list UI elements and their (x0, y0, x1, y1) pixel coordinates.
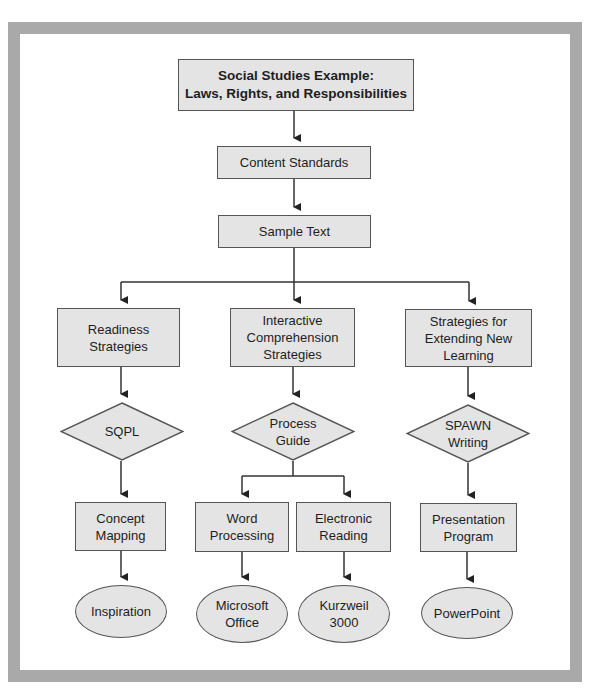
method-line: Guide (276, 432, 311, 449)
strategy-line: Strategies (263, 346, 322, 363)
tool-line: Electronic (315, 510, 372, 527)
strategy-line: Learning (443, 347, 494, 364)
title-line-1: Social Studies Example: (218, 67, 374, 85)
software-line: Kurzweil (319, 597, 368, 614)
method-line: Writing (448, 434, 488, 451)
tool-line: Word (227, 510, 258, 527)
process-guide-diamond: Process Guide (231, 402, 355, 461)
sample-text-box: Sample Text (218, 215, 371, 248)
strategy-line: Extending New (425, 330, 512, 347)
method-line: SQPL (105, 423, 140, 440)
title-line-2: Laws, Rights, and Responsibilities (185, 85, 407, 103)
title-box: Social Studies Example: Laws, Rights, an… (178, 59, 414, 111)
tool-line: Presentation (432, 511, 505, 528)
software-line: Microsoft (216, 597, 269, 614)
tool-line: Concept (96, 510, 144, 527)
strategy-line: Comprehension (247, 329, 339, 346)
software-line: PowerPoint (434, 605, 500, 622)
concept-mapping-box: Concept Mapping (75, 502, 166, 551)
tool-line: Program (444, 528, 494, 545)
tool-line: Reading (319, 527, 367, 544)
interactive-comprehension-strategies-box: Interactive Comprehension Strategies (230, 308, 355, 367)
content-standards-box: Content Standards (217, 146, 371, 179)
sample-text-label: Sample Text (259, 223, 330, 240)
extending-learning-strategies-box: Strategies for Extending New Learning (405, 309, 532, 367)
method-line: Process (270, 415, 317, 432)
software-line: Inspiration (91, 603, 151, 620)
powerpoint-ellipse: PowerPoint (421, 587, 513, 639)
word-processing-box: Word Processing (195, 502, 289, 552)
strategy-line: Interactive (263, 312, 323, 329)
software-line: 3000 (330, 614, 359, 631)
content-standards-label: Content Standards (240, 154, 348, 171)
strategy-line: Strategies (89, 338, 148, 355)
microsoft-office-ellipse: Microsoft Office (196, 585, 288, 643)
method-line: SPAWN (445, 417, 491, 434)
spawn-writing-diamond: SPAWN Writing (406, 404, 530, 463)
strategy-line: Strategies for (430, 313, 507, 330)
software-line: Office (225, 614, 259, 631)
strategy-line: Readiness (88, 321, 149, 338)
presentation-program-box: Presentation Program (420, 503, 517, 552)
inspiration-ellipse: Inspiration (75, 585, 167, 638)
sqpl-diamond: SQPL (60, 402, 184, 461)
kurzweil-3000-ellipse: Kurzweil 3000 (298, 585, 390, 643)
tool-line: Mapping (96, 527, 146, 544)
electronic-reading-box: Electronic Reading (296, 502, 391, 552)
tool-line: Processing (210, 527, 274, 544)
readiness-strategies-box: Readiness Strategies (57, 308, 180, 367)
